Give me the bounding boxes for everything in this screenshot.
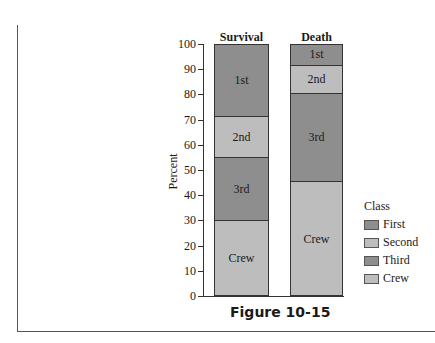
y-tick-label: 0 (166, 290, 196, 302)
bar-survival-title: Survival (214, 30, 269, 45)
segment-label: 1st (309, 47, 323, 62)
legend-swatch-first (364, 220, 379, 230)
segment-survival-crew: Crew (214, 220, 269, 296)
legend-swatch-second (364, 238, 379, 248)
legend-label: Crew (383, 271, 409, 286)
legend-label: Third (383, 253, 410, 268)
legend-item-third: Third (364, 253, 410, 268)
y-tick-label: 40 (166, 189, 196, 201)
y-axis-line (203, 44, 204, 297)
legend-title: Class (364, 199, 390, 214)
y-tick-label: 90 (166, 63, 196, 75)
bar-death: 1st 2nd 3rd Crew (290, 44, 343, 296)
y-tick-label: 10 (166, 265, 196, 277)
y-tick (198, 195, 203, 196)
y-tick-label: 20 (166, 240, 196, 252)
segment-survival-second: 2nd (214, 116, 269, 157)
segment-label: 1st (234, 73, 248, 88)
segment-label: 3rd (234, 182, 250, 197)
y-tick-label: 50 (166, 164, 196, 176)
segment-label: Crew (229, 251, 255, 266)
segment-death-crew: Crew (290, 181, 343, 296)
y-tick-label: 100 (166, 38, 196, 50)
bar-survival: 1st 2nd 3rd Crew (214, 44, 269, 296)
y-tick (198, 94, 203, 95)
y-tick (198, 271, 203, 272)
legend-item-crew: Crew (364, 271, 409, 286)
legend-swatch-third (364, 256, 379, 266)
y-tick (198, 44, 203, 45)
y-tick-label: 30 (166, 214, 196, 226)
segment-death-first: 1st (290, 44, 343, 65)
y-tick-label: 80 (166, 88, 196, 100)
figure-frame-bottom (17, 331, 435, 332)
y-tick (198, 170, 203, 171)
bar-death-title: Death (290, 30, 343, 45)
segment-label: Crew (304, 232, 330, 247)
legend-item-second: Second (364, 235, 418, 250)
figure-caption: Figure 10-15 (230, 304, 330, 320)
legend-swatch-crew (364, 274, 379, 284)
x-axis-line (203, 296, 344, 297)
y-tick (198, 145, 203, 146)
legend-label: First (383, 217, 405, 232)
y-tick (198, 220, 203, 221)
y-tick-label: 70 (166, 114, 196, 126)
y-tick (198, 296, 203, 297)
segment-survival-first: 1st (214, 44, 269, 116)
y-tick-label: 60 (166, 139, 196, 151)
segment-label: 3rd (309, 130, 325, 145)
segment-label: 2nd (308, 72, 326, 87)
y-tick (198, 246, 203, 247)
y-tick (198, 69, 203, 70)
segment-survival-third: 3rd (214, 157, 269, 220)
segment-death-third: 3rd (290, 93, 343, 181)
y-tick (198, 120, 203, 121)
legend-item-first: First (364, 217, 405, 232)
figure-frame-left (17, 25, 18, 332)
legend-label: Second (383, 235, 418, 250)
segment-death-second: 2nd (290, 65, 343, 93)
segment-label: 2nd (233, 130, 251, 145)
